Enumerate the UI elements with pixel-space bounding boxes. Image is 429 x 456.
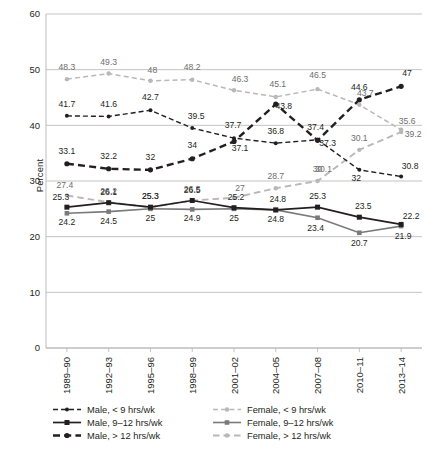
data-label: 32 (146, 152, 156, 162)
data-label: 48 (148, 65, 158, 75)
data-point (64, 161, 69, 166)
data-label: 32.2 (100, 151, 117, 161)
data-point (232, 205, 237, 210)
data-point (232, 88, 236, 92)
data-label: 41.6 (100, 99, 117, 109)
data-point (65, 114, 69, 118)
plot-area: 01020304050601989–901992–931995–961998–9… (0, 0, 429, 400)
legend-label: Female, < 9 hrs/wk (247, 405, 326, 415)
data-label: 46.3 (232, 74, 249, 84)
chart-svg: 01020304050601989–901992–931995–961998–9… (0, 0, 429, 400)
data-label: 20.7 (351, 238, 368, 248)
data-label: 33.1 (59, 146, 76, 156)
data-point (190, 77, 194, 81)
data-point (64, 205, 69, 210)
data-label: 28.7 (267, 171, 284, 181)
data-point (65, 211, 70, 216)
data-label: 47 (402, 68, 412, 78)
data-point (106, 166, 111, 171)
x-tick-label: 2007–08 (312, 357, 323, 394)
data-label: 32 (352, 173, 362, 183)
data-point (273, 207, 278, 212)
legend-item-female-gt12[interactable]: Female, > 12 hrs/wk (212, 430, 377, 441)
data-label: 37.3 (319, 138, 336, 148)
data-label: 30.1 (315, 164, 332, 174)
legend-label: Male, > 12 hrs/wk (87, 431, 160, 441)
data-point (274, 186, 278, 190)
legend-item-male-gt12[interactable]: Male, > 12 hrs/wk (52, 430, 202, 441)
data-label: 48.2 (184, 62, 201, 72)
data-point (148, 167, 153, 172)
data-label: 22.2 (403, 211, 420, 221)
legend-item-female-lt9[interactable]: Female, < 9 hrs/wk (212, 404, 377, 415)
data-point (357, 97, 362, 102)
data-label: 48.3 (59, 62, 76, 72)
y-tick-label: 20 (29, 231, 40, 242)
data-label: 30.1 (351, 133, 368, 143)
data-point (148, 205, 153, 210)
x-tick-label: 2010–11 (354, 357, 365, 393)
data-point (106, 209, 111, 214)
data-label: 49.3 (100, 57, 117, 67)
legend-swatch (212, 404, 242, 415)
legend-item-female-9-12[interactable]: Female, 9–12 hrs/wk (212, 417, 377, 428)
data-label: 27.4 (57, 180, 74, 190)
y-axis-title: Percent (34, 136, 45, 216)
legend-label: Female, > 12 hrs/wk (247, 431, 331, 441)
data-label: 24.2 (59, 217, 76, 227)
legend-swatch (52, 417, 82, 428)
data-label: 36.8 (267, 126, 284, 136)
data-point (65, 77, 69, 81)
data-label: 26.1 (100, 187, 117, 197)
legend-label: Male, < 9 hrs/wk (87, 405, 155, 415)
data-point (357, 168, 361, 172)
legend-item-male-lt9[interactable]: Male, < 9 hrs/wk (52, 404, 202, 415)
data-label: 25.3 (53, 192, 70, 202)
data-label: 37.7 (225, 120, 242, 130)
data-point (190, 198, 195, 203)
data-label: 25 (229, 213, 239, 223)
data-label: 26.5 (184, 185, 201, 195)
data-label: 24.9 (184, 213, 201, 223)
legend-swatch (212, 430, 242, 441)
data-point (315, 179, 319, 183)
x-tick-label: 1995–96 (145, 357, 156, 394)
data-point (190, 156, 195, 161)
data-label: 35.6 (399, 116, 416, 126)
data-label: 25.2 (228, 192, 245, 202)
data-point (357, 215, 362, 220)
x-tick-label: 2013–14 (396, 357, 407, 394)
data-point (107, 114, 111, 118)
data-label: 21.9 (395, 231, 412, 241)
y-tick-label: 40 (29, 120, 40, 131)
legend-swatch (52, 404, 82, 415)
y-tick-label: 50 (29, 64, 40, 75)
data-label: 24.5 (100, 216, 117, 226)
legend-swatch (212, 417, 242, 428)
data-point (274, 141, 278, 145)
data-point (106, 200, 111, 205)
data-label: 39.2 (405, 129, 422, 139)
data-point (399, 222, 404, 227)
data-point (357, 103, 361, 107)
data-label: 24.8 (267, 214, 284, 224)
chart-container: 01020304050601989–901992–931995–961998–9… (0, 0, 429, 456)
data-label: 24.8 (269, 194, 286, 204)
data-point (190, 207, 195, 212)
x-tick-label: 1989–90 (61, 357, 72, 394)
x-tick-label: 1998–99 (187, 357, 198, 394)
data-label: 43.8 (275, 101, 292, 111)
data-point (148, 79, 152, 83)
data-label: 44.6 (351, 82, 368, 92)
data-point (190, 126, 194, 130)
y-tick-label: 60 (29, 8, 40, 19)
x-tick-label: 2004–05 (270, 357, 281, 394)
data-point (106, 71, 110, 75)
data-point (357, 148, 361, 152)
data-label: 37.1 (232, 143, 249, 153)
legend-item-male-9-12[interactable]: Male, 9–12 hrs/wk (52, 417, 202, 428)
data-label: 42.7 (142, 92, 159, 102)
y-tick-label: 0 (35, 342, 40, 353)
data-point (315, 215, 320, 220)
x-tick-label: 2001–02 (229, 357, 240, 394)
